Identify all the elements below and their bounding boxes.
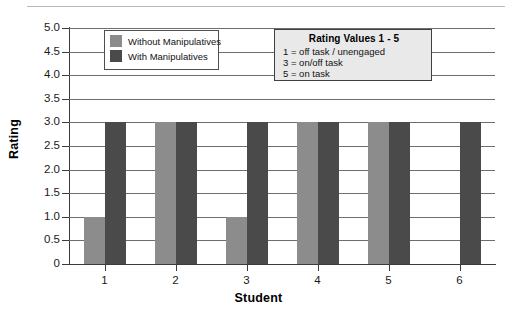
legend-swatch-icon xyxy=(110,50,122,62)
y-tick-label: 4.5 xyxy=(26,46,60,57)
note-line-1: 1 = off task / unengaged xyxy=(283,46,425,57)
y-tick-mark xyxy=(62,122,69,123)
bar-without-manipulatives-student-1 xyxy=(84,217,105,264)
bar-with-manipulatives-student-5 xyxy=(389,122,410,264)
bar-with-manipulatives-student-1 xyxy=(105,122,126,264)
y-tick-mark xyxy=(62,75,69,76)
bar-with-manipulatives-student-4 xyxy=(318,122,339,264)
x-tick-label: 6 xyxy=(440,274,480,286)
x-tick-label: 2 xyxy=(156,274,196,286)
x-tick-mark xyxy=(460,265,461,271)
y-tick-label: 4.0 xyxy=(26,69,60,80)
y-tick-label: 1.5 xyxy=(26,187,60,198)
y-tick-mark xyxy=(62,99,69,100)
y-tick-mark xyxy=(62,193,69,194)
bar-with-manipulatives-student-6 xyxy=(460,122,481,264)
legend-item-with-manipulatives: With Manipulatives xyxy=(110,50,213,62)
legend-item-without-manipulatives: Without Manipulatives xyxy=(110,35,213,47)
x-tick-label: 4 xyxy=(298,274,338,286)
bar-without-manipulatives-student-5 xyxy=(368,122,389,264)
x-tick-mark xyxy=(247,265,248,271)
y-tick-mark xyxy=(62,240,69,241)
legend-box: Without Manipulatives With Manipulatives xyxy=(104,30,219,70)
y-tick-label: 2.5 xyxy=(26,140,60,151)
y-tick-mark xyxy=(62,146,69,147)
y-tick-label: 2.0 xyxy=(26,164,60,175)
x-axis-line xyxy=(69,264,496,265)
y-tick-mark xyxy=(62,52,69,53)
x-tick-label: 5 xyxy=(369,274,409,286)
x-tick-label: 1 xyxy=(85,274,125,286)
bar-with-manipulatives-student-2 xyxy=(176,122,197,264)
legend-swatch-icon xyxy=(110,35,122,47)
x-tick-mark xyxy=(176,265,177,271)
bar-with-manipulatives-student-3 xyxy=(247,122,268,264)
y-tick-label: 3.0 xyxy=(26,116,60,127)
y-tick-labels-group: 00.51.01.52.02.53.03.54.04.55.0 xyxy=(20,0,60,316)
bar-chart-figure: 00.51.01.52.02.53.03.54.04.55.0 123456 R… xyxy=(0,0,517,316)
x-tick-mark xyxy=(105,265,106,271)
note-title: Rating Values 1 - 5 xyxy=(283,33,425,44)
y-tick-mark xyxy=(62,217,69,218)
x-tick-mark xyxy=(389,265,390,271)
legend-label: Without Manipulatives xyxy=(128,36,221,47)
y-tick-label: 0.5 xyxy=(26,234,60,245)
bar-without-manipulatives-student-2 xyxy=(155,122,176,264)
bar-without-manipulatives-student-3 xyxy=(226,217,247,264)
bar-without-manipulatives-student-4 xyxy=(297,122,318,264)
top-divider-rule xyxy=(27,6,505,7)
note-line-3: 3 = on/off task xyxy=(283,57,425,68)
y-axis-title: Rating xyxy=(7,99,21,179)
y-tick-label: 0 xyxy=(26,258,60,269)
y-tick-mark xyxy=(62,170,69,171)
x-axis-title: Student xyxy=(0,291,517,305)
x-tick-label: 3 xyxy=(227,274,267,286)
x-tick-mark xyxy=(318,265,319,271)
note-line-5: 5 = on task xyxy=(283,68,425,79)
y-tick-label: 3.5 xyxy=(26,93,60,104)
y-tick-label: 1.0 xyxy=(26,211,60,222)
rating-values-note-box: Rating Values 1 - 5 1 = off task / uneng… xyxy=(274,29,432,81)
legend-label: With Manipulatives xyxy=(128,51,208,62)
y-tick-mark xyxy=(62,28,69,29)
y-tick-label: 5.0 xyxy=(26,22,60,33)
y-tick-mark xyxy=(62,264,69,265)
